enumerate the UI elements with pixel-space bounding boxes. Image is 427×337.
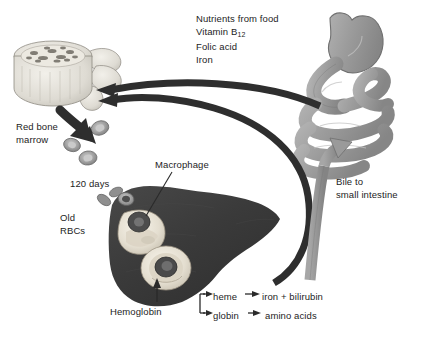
nutrients-line-3: Folic acid (196, 41, 279, 54)
arrow-to-globin (203, 310, 213, 316)
bile-line-2: small intestine (336, 189, 398, 202)
arrow-heme-to-products (245, 291, 260, 297)
arrow-marrow-to-rbcs (60, 110, 96, 144)
old-rbcs-line-1: Old (60, 212, 85, 225)
label-old-rbcs: Old RBCs (60, 212, 85, 237)
arrow-globin-to-products (248, 310, 261, 316)
bile-line-1: Bile to (336, 176, 398, 189)
vitamin-b-text: Vitamin B (196, 26, 237, 37)
old-rbcs-line-2: RBCs (60, 225, 85, 238)
label-globin-products: amino acids (265, 310, 317, 323)
liver-illustration (109, 186, 280, 306)
nutrients-line-4: Iron (196, 54, 279, 67)
nutrients-line-1: Nutrients from food (196, 13, 279, 26)
breakdown-bracket (200, 294, 205, 313)
label-globin: globin (213, 310, 239, 323)
red-bone-marrow-line-2: marrow (16, 134, 58, 147)
diagram-canvas: Nutrients from food Vitamin B12 Folic ac… (0, 0, 427, 337)
label-red-bone-marrow: Red bone marrow (16, 121, 58, 146)
nutrients-label-block: Nutrients from food Vitamin B12 Folic ac… (196, 13, 279, 66)
arrow-to-heme (203, 291, 213, 297)
nutrients-line-2: Vitamin B12 (196, 26, 279, 42)
vitamin-b-subscript: 12 (237, 31, 245, 38)
label-rbc-lifespan: 120 days (70, 178, 109, 191)
label-heme-products: iron + bilirubin (262, 291, 323, 304)
label-macrophage: Macrophage (155, 159, 209, 172)
label-heme: heme (213, 291, 237, 304)
red-bone-marrow-line-1: Red bone (16, 121, 58, 134)
label-hemoglobin: Hemoglobin (110, 306, 162, 319)
macrophage-cell-lower (141, 246, 191, 290)
label-bile-to-small-intestine: Bile to small intestine (336, 176, 398, 201)
